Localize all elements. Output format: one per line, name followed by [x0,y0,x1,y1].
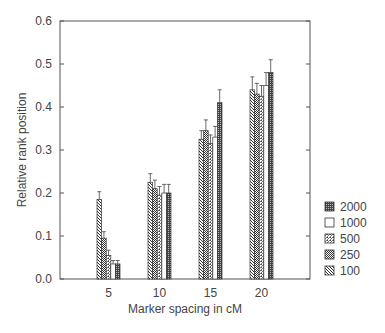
y-tick-label: 0.3 [35,143,52,157]
legend-swatch-1000 [325,218,334,227]
bar-20-500 [259,96,264,279]
x-tick-label: 5 [105,286,112,300]
bar-15-2000 [217,103,222,279]
bar-10-500 [157,195,162,279]
bar-5-2000 [115,264,120,279]
bar-5-1000 [111,264,116,279]
legend-label-1000: 1000 [340,216,367,230]
legend-label-2000: 2000 [340,200,367,214]
y-tick-label: 0.6 [35,14,52,28]
y-tick-label: 0.5 [35,57,52,71]
bar-chart: 0.00.10.20.30.40.50.65101520 20001000500… [0,0,385,333]
bar-15-500 [208,144,213,279]
bars-group [97,60,273,279]
y-tick-label: 0.4 [35,100,52,114]
bar-5-100 [97,199,102,279]
legend-swatch-100 [325,266,334,275]
bar-10-250 [153,189,158,279]
bar-5-500 [106,255,111,279]
y-tick-label: 0.0 [35,272,52,286]
y-tick-label: 0.1 [35,229,52,243]
bar-20-250 [255,94,260,279]
bar-5-250 [102,238,107,279]
bar-10-1000 [162,193,167,279]
bar-20-2000 [268,73,273,279]
legend-swatch-500 [325,234,334,243]
legend-swatch-250 [325,250,334,259]
bar-10-2000 [166,193,171,279]
x-tick-label: 15 [204,286,218,300]
bar-20-100 [250,90,255,279]
legend-label-500: 500 [340,232,360,246]
x-tick-label: 10 [153,286,167,300]
y-axis-title: Relative rank position [15,93,29,208]
legend-label-100: 100 [340,264,360,278]
legend-swatch-2000 [325,202,334,211]
legend: 20001000500250100 [325,200,367,278]
bar-15-1000 [213,137,218,279]
x-axis-title: Marker spacing in cM [128,302,242,316]
bar-20-1000 [264,86,269,280]
bar-10-100 [148,182,153,279]
bar-15-100 [199,139,204,279]
legend-label-250: 250 [340,248,360,262]
y-tick-label: 0.2 [35,186,52,200]
x-tick-label: 20 [255,286,269,300]
bar-15-250 [204,131,209,279]
